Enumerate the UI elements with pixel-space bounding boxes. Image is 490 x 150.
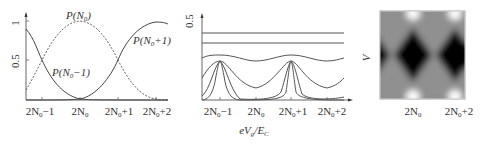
y-axis-arrow-icon — [201, 13, 204, 18]
y-axis-label: V — [360, 53, 372, 61]
x-tick-label: 2N0−1 — [204, 105, 233, 119]
x-axis-label: eVg/EC — [239, 124, 269, 138]
x-tick-label: 2N0+2 — [318, 105, 347, 119]
figure: 1 0.5 P(N0) P(N0−1) P(N0+1) 2N0−1 2N0 2N… — [0, 0, 490, 150]
x-tick-label: 2N0+2 — [143, 105, 172, 119]
x-tick-label: 2N0−1 — [26, 105, 55, 119]
panel-coulomb-diamonds-heatmap: V 2N0 2N0+2 — [352, 6, 474, 119]
curve-p-n0 — [26, 21, 168, 100]
x-tick-label: 2N0 — [405, 105, 422, 119]
y-tick-label: 1 — [9, 20, 21, 26]
panel-occupation-probabilities: 1 0.5 P(N0) P(N0−1) P(N0+1) 2N0−1 2N0 2N… — [9, 9, 171, 119]
label-p-n0-plus-1: P(N0+1) — [132, 34, 171, 48]
label-p-n0-minus-1: P(N0−1) — [51, 66, 90, 80]
label-p-n0: P(N0) — [65, 9, 91, 23]
panel-transmission-curves: 0.5 2N0−1 2N0 2N0+1 2N0+2 eVg/EC — [183, 13, 353, 138]
x-tick-label: 2N0+1 — [279, 105, 308, 119]
y-axis-arrow-icon — [25, 12, 28, 17]
x-tick-label: 2N0+1 — [105, 105, 134, 119]
x-tick-label: 2N0 — [248, 105, 265, 119]
x-tick-label: 2N0 — [72, 105, 89, 119]
curve-oscillating — [202, 55, 344, 61]
y-tick-label: 0.5 — [183, 14, 195, 28]
curve-medium-peaks — [202, 61, 344, 99]
x-tick-label: 2N0+2 — [445, 105, 474, 119]
x-axis-arrow-icon — [348, 99, 353, 102]
y-tick-label: 0.5 — [9, 54, 21, 68]
